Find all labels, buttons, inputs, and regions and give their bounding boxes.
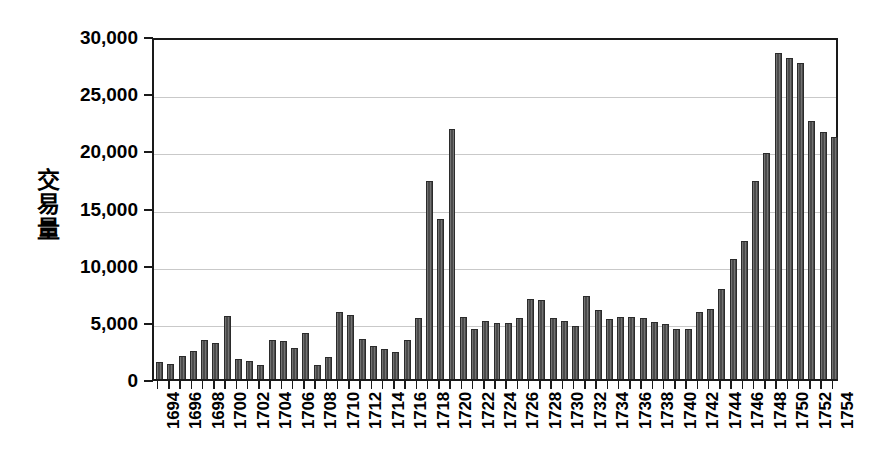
x-tick-label-1704: 1704 <box>276 392 296 429</box>
x-tick-mark-1743 <box>708 381 710 389</box>
bar-chart-figure: 交 易 量 05,00010,00015,00020,00025,00030,0… <box>0 0 883 464</box>
bar-1753 <box>820 132 827 379</box>
x-tick-label-1752: 1752 <box>816 392 836 429</box>
bar-1752 <box>808 121 815 379</box>
x-tick-label-1724: 1724 <box>501 392 521 429</box>
bar-1718 <box>426 181 433 379</box>
x-tick-mark-1728 <box>539 381 541 389</box>
bar-1730 <box>561 321 568 379</box>
x-tick-label-1698: 1698 <box>209 392 229 429</box>
x-tick-label-1712: 1712 <box>366 392 386 429</box>
bar-1713 <box>370 346 377 379</box>
bar-1699 <box>212 343 219 379</box>
x-tick-mark-1712 <box>359 381 361 389</box>
x-tick-mark-1753 <box>820 381 822 389</box>
bar-1709 <box>325 357 332 379</box>
x-tick-mark-1713 <box>371 381 373 389</box>
y-tick-mark-30000 <box>144 37 153 39</box>
x-tick-mark-1735 <box>618 381 620 389</box>
bar-1728 <box>538 300 545 379</box>
x-tick-mark-1738 <box>652 381 654 389</box>
x-tick-mark-1741 <box>685 381 687 389</box>
x-tick-label-1714: 1714 <box>389 392 409 429</box>
x-tick-mark-1727 <box>528 381 530 389</box>
y-tick-mark-0 <box>144 380 153 382</box>
x-tick-label-1706: 1706 <box>299 392 319 429</box>
bar-1716 <box>404 340 411 379</box>
x-tick-label-1732: 1732 <box>591 392 611 429</box>
x-tick-mark-1704 <box>269 381 271 389</box>
bar-1711 <box>347 315 354 379</box>
x-tick-mark-1709 <box>326 381 328 389</box>
x-tick-mark-1732 <box>584 381 586 389</box>
x-tick-mark-1695 <box>168 381 170 389</box>
bar-1746 <box>741 241 748 379</box>
x-tick-mark-1711 <box>348 381 350 389</box>
bar-1715 <box>392 352 399 379</box>
x-tick-mark-1698 <box>202 381 204 389</box>
x-tick-mark-1746 <box>742 381 744 389</box>
bar-1726 <box>516 318 523 379</box>
bar-1731 <box>572 326 579 379</box>
bar-1701 <box>235 359 242 379</box>
x-tick-label-1750: 1750 <box>793 392 813 429</box>
bar-1727 <box>527 299 534 379</box>
x-tick-mark-1708 <box>314 381 316 389</box>
x-tick-label-1744: 1744 <box>726 392 746 429</box>
bar-1738 <box>651 322 658 379</box>
x-tick-mark-1724 <box>494 381 496 389</box>
x-tick-mark-1707 <box>303 381 305 389</box>
bar-1706 <box>291 348 298 379</box>
bar-1742 <box>696 312 703 379</box>
x-tick-mark-1703 <box>258 381 260 389</box>
x-tick-label-1746: 1746 <box>748 392 768 429</box>
x-tick-mark-1731 <box>573 381 575 389</box>
x-tick-mark-1729 <box>550 381 552 389</box>
x-tick-label-1718: 1718 <box>434 392 454 429</box>
x-tick-mark-1745 <box>730 381 732 389</box>
y-tick-label-0: 0 <box>127 370 138 392</box>
x-tick-label-1734: 1734 <box>613 392 633 429</box>
x-tick-mark-1699 <box>213 381 215 389</box>
bar-1733 <box>595 310 602 379</box>
y-tick-mark-5000 <box>144 323 153 325</box>
x-tick-label-1696: 1696 <box>186 392 206 429</box>
x-tick-mark-1696 <box>179 381 181 389</box>
x-tick-label-1716: 1716 <box>411 392 431 429</box>
bar-1707 <box>302 333 309 379</box>
x-tick-mark-1717 <box>416 381 418 389</box>
bar-1743 <box>707 309 714 379</box>
bar-1729 <box>550 318 557 379</box>
bar-1750 <box>786 58 793 379</box>
bar-1700 <box>224 316 231 379</box>
x-tick-mark-1734 <box>607 381 609 389</box>
bar-1724 <box>494 323 501 379</box>
bar-1723 <box>482 321 489 379</box>
x-tick-label-1742: 1742 <box>703 392 723 429</box>
bar-1748 <box>763 153 770 379</box>
x-tick-mark-1725 <box>505 381 507 389</box>
x-tick-mark-1749 <box>775 381 777 389</box>
y-tick-label-25000: 25,000 <box>80 84 138 106</box>
bar-1717 <box>415 318 422 379</box>
x-tick-mark-1748 <box>764 381 766 389</box>
x-tick-label-1736: 1736 <box>636 392 656 429</box>
x-tick-label-1748: 1748 <box>771 392 791 429</box>
bar-1747 <box>752 181 759 379</box>
bar-1705 <box>280 341 287 379</box>
bar-1740 <box>673 329 680 379</box>
x-tick-label-1720: 1720 <box>456 392 476 429</box>
bar-1708 <box>314 365 321 379</box>
x-tick-mark-1715 <box>393 381 395 389</box>
x-tick-mark-1733 <box>595 381 597 389</box>
bar-1712 <box>359 339 366 379</box>
bar-1734 <box>606 319 613 379</box>
x-tick-mark-1739 <box>663 381 665 389</box>
x-tick-mark-1710 <box>337 381 339 389</box>
bar-1719 <box>437 219 444 379</box>
bar-1751 <box>797 63 804 379</box>
x-tick-label-1700: 1700 <box>231 392 251 429</box>
x-tick-mark-1740 <box>674 381 676 389</box>
bar-1698 <box>201 340 208 379</box>
x-tick-mark-1697 <box>191 381 193 389</box>
